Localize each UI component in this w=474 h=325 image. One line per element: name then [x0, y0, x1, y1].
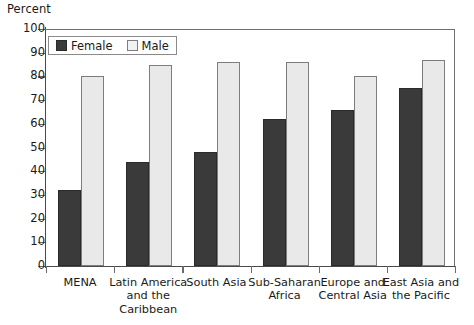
y-axis-tick-label: 80 — [11, 68, 45, 82]
bar-female[interactable] — [194, 152, 217, 266]
bar-female[interactable] — [399, 88, 422, 266]
bar-group — [387, 29, 455, 266]
bar-male[interactable] — [81, 76, 104, 266]
x-axis-tick-mark — [387, 266, 388, 273]
y-axis-tick-label: 20 — [11, 211, 45, 225]
bar-group — [46, 29, 114, 266]
bar-male[interactable] — [286, 62, 309, 266]
legend-label: Male — [142, 39, 169, 53]
legend-entry-male[interactable]: Male — [127, 39, 169, 53]
x-axis-tick-mark — [114, 266, 115, 273]
bar-female[interactable] — [126, 162, 149, 266]
bar-female[interactable] — [331, 110, 354, 266]
chart-legend: FemaleMale — [48, 36, 177, 55]
y-axis-tick-label: 60 — [11, 116, 45, 130]
bar-group — [251, 29, 319, 266]
x-axis-category-label: East Asia and the Pacific — [381, 276, 461, 303]
bar-chart-figure: Percent 1009080706050403020100 MENALatin… — [0, 0, 474, 325]
bar-male[interactable] — [217, 62, 240, 266]
y-axis-tick-label: 50 — [11, 140, 45, 154]
plot-area — [46, 29, 455, 266]
bar-male[interactable] — [354, 76, 377, 266]
bar-group — [114, 29, 182, 266]
bar-male[interactable] — [422, 60, 445, 266]
legend-female-swatch — [56, 40, 67, 51]
y-axis-tick-label: 10 — [11, 234, 45, 248]
y-axis-tick-label: 70 — [11, 92, 45, 106]
bar-male[interactable] — [149, 65, 172, 266]
y-axis-tick-label: 90 — [11, 45, 45, 59]
legend-entry-female[interactable]: Female — [56, 39, 113, 53]
y-axis-tick-label: 0 — [11, 258, 45, 272]
x-axis-tick-mark — [455, 266, 456, 273]
y-axis-tick-label: 30 — [11, 187, 45, 201]
y-axis-title: Percent — [7, 2, 51, 16]
x-axis-tick-mark — [182, 266, 183, 273]
y-axis-tick-label: 40 — [11, 163, 45, 177]
bar-female[interactable] — [263, 119, 286, 266]
y-axis-tick-label: 100 — [11, 21, 45, 35]
bar-female[interactable] — [58, 190, 81, 266]
bar-group — [182, 29, 250, 266]
x-axis-tick-mark — [319, 266, 320, 273]
bar-group — [319, 29, 387, 266]
x-axis-tick-mark — [46, 266, 47, 273]
legend-male-swatch — [127, 40, 138, 51]
x-axis-tick-mark — [251, 266, 252, 273]
legend-label: Female — [71, 39, 113, 53]
